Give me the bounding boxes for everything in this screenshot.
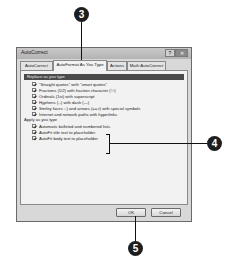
checkbox-checked-icon[interactable]: [32, 88, 36, 92]
checkbox-checked-icon[interactable]: [32, 124, 36, 128]
apply-as-you-type-header: Apply as you type: [24, 117, 57, 122]
tab-math-autocorrect[interactable]: Math AutoCorrect: [127, 61, 166, 70]
checkbox-checked-icon[interactable]: [32, 130, 36, 134]
checkbox-checked-icon[interactable]: [32, 100, 36, 104]
option-autofit-body[interactable]: AutoFit body text to placeholder: [32, 135, 98, 141]
checkbox-checked-icon[interactable]: [32, 112, 36, 116]
close-button[interactable]: ✕: [175, 49, 188, 57]
callout-4: 4: [207, 136, 222, 151]
tab-autoformat-as-you-type[interactable]: AutoFormat As You Type: [53, 60, 107, 71]
checkbox-checked-icon[interactable]: [32, 94, 36, 98]
checkbox-checked-icon[interactable]: [32, 136, 36, 140]
cancel-button[interactable]: Cancel: [151, 208, 181, 217]
callout-3-leader-line: [81, 22, 82, 62]
autocorrect-dialog: AutoCorrect ? ✕ AutoCorrect AutoFormat A…: [16, 47, 192, 222]
callout-5-leader-line: [135, 216, 136, 242]
ok-button[interactable]: OK: [116, 208, 146, 217]
replace-as-you-type-header: Replace as you type: [24, 74, 184, 80]
tab-autocorrect[interactable]: AutoCorrect: [20, 61, 53, 70]
callout-3: 3: [74, 7, 89, 22]
title-bar: AutoCorrect ? ✕: [17, 48, 191, 59]
dialog-title: AutoCorrect: [21, 49, 48, 55]
checkbox-checked-icon[interactable]: [32, 106, 36, 110]
autoformat-panel: Replace as you type "Straight quotes" wi…: [20, 70, 188, 205]
help-button[interactable]: ?: [165, 49, 175, 57]
tab-actions[interactable]: Actions: [107, 61, 127, 70]
callout-4-leader-line: [109, 143, 207, 144]
callout-4-bracket: [106, 134, 110, 154]
callout-5: 5: [128, 241, 143, 256]
checkbox-checked-icon[interactable]: [32, 82, 36, 86]
